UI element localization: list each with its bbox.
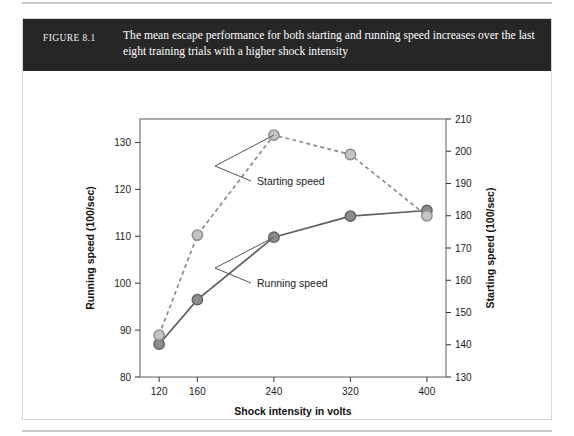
y-axis-tick-label: 110 [115,231,131,242]
y2-axis-tick-label: 210 [455,114,472,125]
y2-axis-tick-label: 200 [455,146,472,157]
figure-caption: The mean escape performance for both sta… [123,28,535,59]
data-point [192,294,202,304]
data-point [269,130,279,140]
y2-axis-tick-label: 160 [455,275,472,286]
y2-axis-tick-label: 190 [455,178,472,189]
data-point [345,211,355,221]
y-axis-tick-label: 130 [114,137,131,148]
line-chart: 8090100110120130130140150160170180190200… [23,71,551,420]
data-point [269,232,279,242]
y-axis-tick-label: 120 [114,184,131,195]
caption-bar: FIGURE 8.1 The mean escape performance f… [23,19,551,71]
y-axis-tick-label: 90 [120,325,132,336]
data-point [192,230,202,240]
y2-axis-tick-label: 130 [455,372,472,383]
y2-axis-tick-label: 180 [455,210,472,221]
data-point [422,211,432,221]
y-axis-title: Running speed (100/sec) [84,186,96,310]
series-annotation-label: Running speed [257,277,328,289]
y-axis-tick-label: 100 [114,278,131,289]
x-axis-tick-label: 240 [266,386,283,397]
x-axis-title: Shock intensity in volts [234,405,351,417]
chart-area: 8090100110120130130140150160170180190200… [23,71,551,420]
figure-number: FIGURE 8.1 [43,33,96,43]
data-point [345,149,355,159]
x-axis-tick-label: 120 [151,386,168,397]
plot-frame [140,119,446,377]
y2-axis-tick-label: 170 [455,243,472,254]
figure-container: FIGURE 8.1 The mean escape performance f… [22,18,552,420]
figure-page: FIGURE 8.1 The mean escape performance f… [0,0,574,436]
y2-axis-title: Starting speed (100/sec) [484,188,496,309]
top-divider [22,2,552,4]
x-axis-tick-label: 400 [419,386,436,397]
y2-axis-tick-label: 150 [455,307,472,318]
y2-axis-tick-label: 140 [455,339,472,350]
data-point [154,330,164,340]
series-annotation-label: Starting speed [257,175,325,187]
x-axis-tick-label: 160 [189,386,206,397]
y-axis-tick-label: 80 [120,372,132,383]
bottom-divider [22,430,552,432]
x-axis-tick-label: 320 [342,386,359,397]
